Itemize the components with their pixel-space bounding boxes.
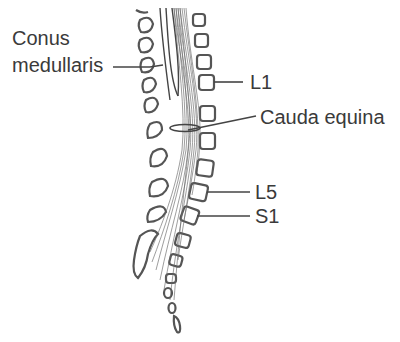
label-cauda-equina: Cauda equina <box>260 106 385 128</box>
label-medullaris: medullaris <box>12 54 103 76</box>
spine-diagram: Conus medullaris L1 Cauda equina L5 S1 <box>0 0 400 342</box>
label-s1: S1 <box>255 205 279 227</box>
vertebra-s1 <box>180 206 200 226</box>
label-conus: Conus <box>12 27 70 49</box>
label-l5: L5 <box>255 181 277 203</box>
vertebra-l1 <box>199 75 214 90</box>
vertebra-l5 <box>189 183 209 202</box>
label-l1: L1 <box>250 71 272 93</box>
posterior-vertebral-processes <box>134 10 169 278</box>
